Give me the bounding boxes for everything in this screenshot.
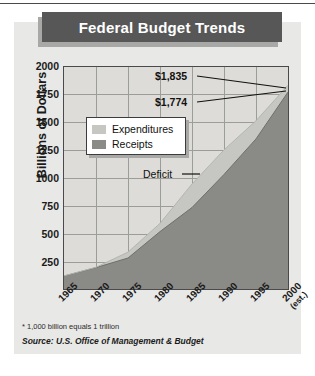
y-tick-label: 500: [15, 228, 59, 240]
legend-label-expenditures: Expenditures: [112, 123, 173, 135]
y-tick-label: 2000: [15, 60, 59, 72]
y-tick-label: 1750: [15, 88, 59, 100]
legend: Expenditures Receipts: [86, 117, 186, 155]
legend-swatch-expenditures: [92, 125, 106, 134]
legend-item-expenditures: Expenditures: [92, 122, 180, 136]
y-tick-label: 250: [15, 256, 59, 268]
callout-receipts-value: $1,774: [155, 96, 187, 108]
y-tick-label: 750: [15, 200, 59, 212]
footnote-text: * 1,000 billion equals 1 trillion: [22, 322, 119, 331]
legend-item-receipts: Receipts: [92, 137, 180, 151]
callout-expenditures-value: $1,835: [155, 70, 187, 82]
y-tick-label: 1500: [15, 116, 59, 128]
source-text: Source: U.S. Office of Management & Budg…: [22, 336, 204, 346]
legend-swatch-receipts: [92, 140, 106, 149]
y-tick-label: 1000: [15, 172, 59, 184]
y-tick-label: 1250: [15, 144, 59, 156]
legend-label-receipts: Receipts: [112, 138, 153, 150]
chart-figure: Federal Budget Trends Billions of Dollar…: [0, 0, 315, 376]
callout-deficit-label: Deficit: [143, 168, 172, 180]
